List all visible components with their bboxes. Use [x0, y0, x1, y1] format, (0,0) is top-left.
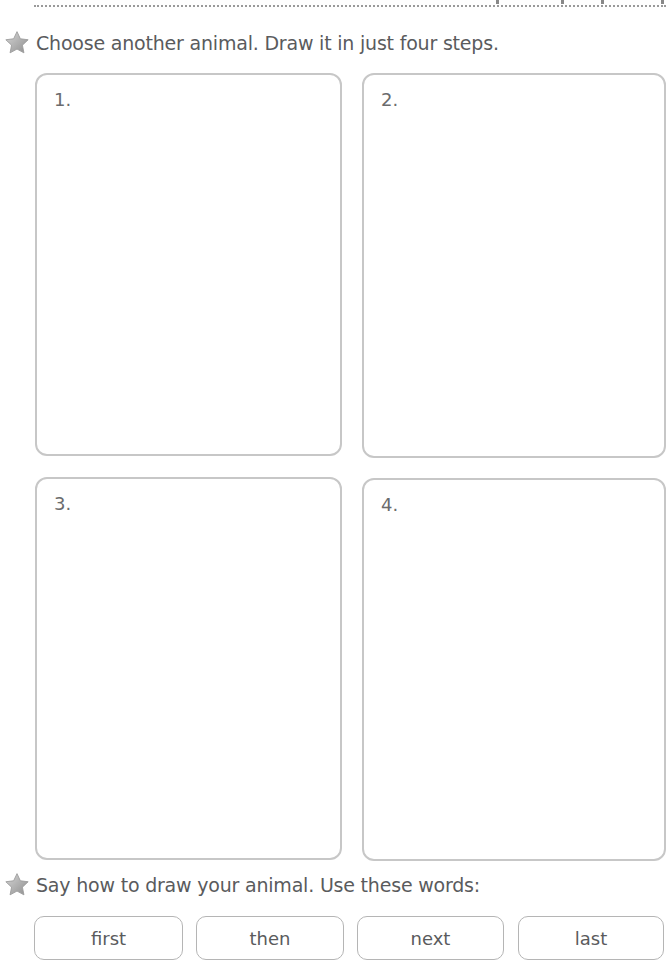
- word-box-last: last: [518, 916, 664, 960]
- word-box-first: first: [34, 916, 183, 960]
- drawing-box-step-3[interactable]: 3.: [35, 477, 342, 860]
- task2-instruction-text: Say how to draw your animal. Use these w…: [36, 874, 480, 896]
- task2-instruction: Say how to draw your animal. Use these w…: [4, 872, 480, 898]
- star-icon: [4, 872, 30, 898]
- step-number: 4.: [381, 494, 398, 515]
- cut-text-fragment: [601, 0, 604, 4]
- drawing-box-step-2[interactable]: 2.: [362, 73, 666, 458]
- star-icon: [4, 30, 30, 56]
- top-dotted-divider: [34, 5, 666, 7]
- task1-instruction: Choose another animal. Draw it in just f…: [4, 30, 499, 56]
- cut-text-fragment: [661, 0, 664, 4]
- cut-text-fragment: [561, 0, 564, 4]
- word-box-next: next: [357, 916, 504, 960]
- drawing-box-step-1[interactable]: 1.: [35, 73, 342, 456]
- step-number: 1.: [54, 89, 71, 110]
- task1-instruction-text: Choose another animal. Draw it in just f…: [36, 32, 499, 54]
- word-box-then: then: [196, 916, 344, 960]
- step-number: 2.: [381, 89, 398, 110]
- step-number: 3.: [54, 493, 71, 514]
- drawing-box-step-4[interactable]: 4.: [362, 478, 666, 861]
- cut-text-fragment: [496, 0, 499, 4]
